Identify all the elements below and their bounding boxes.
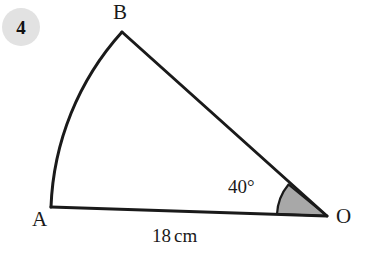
angle-measure-label: 40°	[228, 177, 255, 196]
line-ob	[122, 32, 327, 216]
arc-ab	[51, 32, 122, 207]
vertex-label-o: O	[336, 206, 351, 227]
radius-length-unit: cm	[174, 225, 197, 246]
radius-length-label: 18cm	[152, 226, 197, 245]
vertex-label-b: B	[113, 2, 127, 23]
radius-length-value: 18	[152, 225, 171, 246]
vertex-label-a: A	[32, 209, 47, 230]
figure-page: 4 B A O 40° 18cm	[0, 0, 368, 264]
